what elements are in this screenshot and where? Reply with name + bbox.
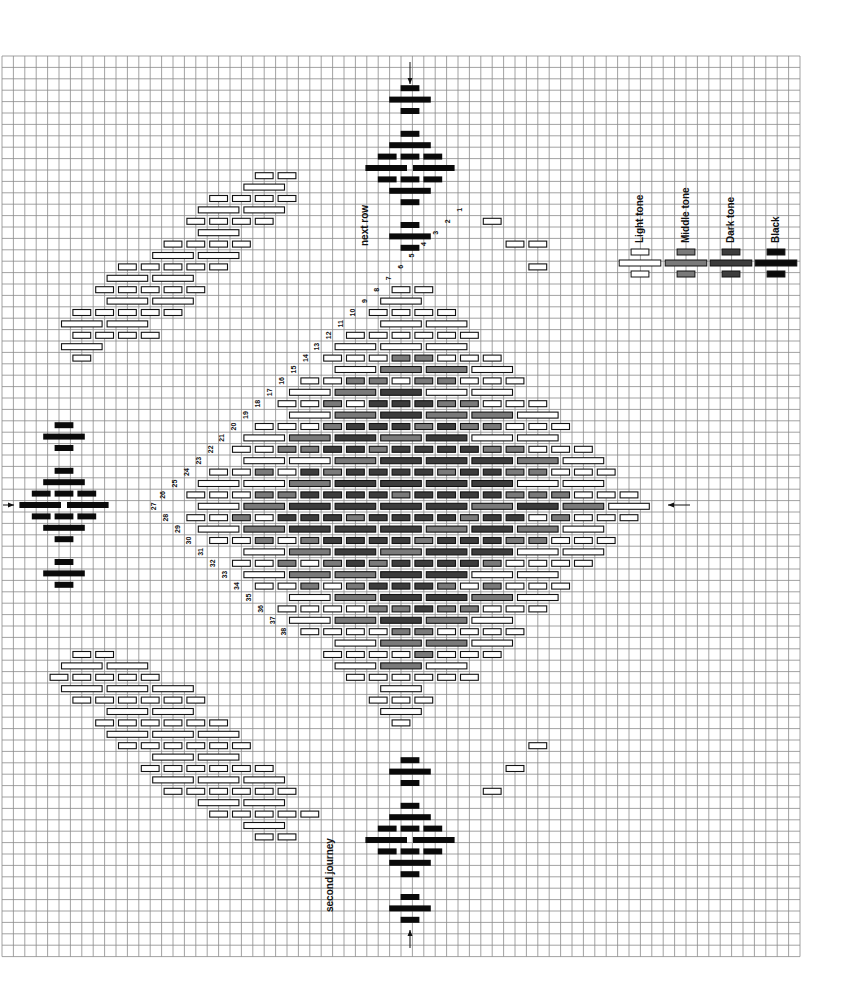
black-stitch <box>401 826 420 832</box>
stitch-bar <box>324 652 342 658</box>
black-stitch <box>401 871 420 877</box>
black-stitch <box>389 97 431 103</box>
stitch-bar <box>347 401 365 407</box>
stitch-bar <box>164 287 182 293</box>
stitch-number: 11 <box>337 320 344 328</box>
stitch-bar <box>369 424 387 430</box>
stitch-bar <box>392 424 410 430</box>
stitch-bar <box>369 401 387 407</box>
stitch-bar <box>73 355 91 361</box>
stitch-bar <box>506 538 524 544</box>
stitch-number: 38 <box>280 628 287 636</box>
stitch-bar <box>415 538 433 544</box>
legend-swatch-black <box>755 260 797 266</box>
legend-swatch-light <box>631 271 649 277</box>
black-stitch <box>401 780 420 786</box>
stitch-bar <box>96 652 114 658</box>
stitch-bar <box>415 378 433 384</box>
stitch-bar <box>575 469 593 475</box>
stitch-bar <box>597 492 615 498</box>
stitch-bar <box>415 652 433 658</box>
stitch-bar <box>255 788 273 794</box>
stitch-bar <box>301 560 319 566</box>
stitch-bar <box>107 731 148 737</box>
stitch-bar <box>472 435 513 441</box>
stitch-bar <box>483 560 501 566</box>
stitch-bar <box>461 355 479 361</box>
stitch-bar <box>461 629 479 635</box>
stitch-bar <box>426 640 467 646</box>
stitch-bar <box>244 549 285 555</box>
stitch-bar <box>255 766 273 772</box>
stitch-bar <box>255 196 273 202</box>
black-stitch <box>401 154 420 160</box>
stitch-bar <box>461 469 479 475</box>
black-stitch <box>55 536 74 542</box>
stitch-bar <box>518 572 559 578</box>
stitch-bar <box>575 492 593 498</box>
stitch-bar <box>369 515 387 521</box>
stitch-number: 22 <box>207 445 214 453</box>
stitch-number: 9 <box>361 299 368 303</box>
stitch-bar <box>62 686 103 692</box>
stitch-bar <box>575 515 593 521</box>
stitch-bar <box>483 629 501 635</box>
stitch-bar <box>278 173 296 179</box>
stitch-bar <box>506 446 524 452</box>
legend-label-dark: Dark tone <box>725 196 736 243</box>
stitch-bar <box>210 766 228 772</box>
stitch-bar <box>244 777 285 783</box>
stitch-bar <box>461 674 479 680</box>
stitch-bar <box>187 766 205 772</box>
stitch-bar <box>233 766 251 772</box>
legend-swatch-black <box>767 249 785 255</box>
stitch-bar <box>335 458 376 464</box>
stitch-bar <box>244 526 285 532</box>
stitch-bar <box>278 424 296 430</box>
stitch-bar <box>461 606 479 612</box>
stitch-bar <box>518 595 559 601</box>
stitch-bar <box>438 469 456 475</box>
stitch-bar <box>210 538 228 544</box>
black-stitch <box>43 525 85 531</box>
stitch-number: 7 <box>385 276 392 280</box>
stitch-bar <box>290 503 331 509</box>
stitch-bar <box>529 401 547 407</box>
stitch-bar <box>187 264 205 270</box>
stitch-number: 26 <box>159 491 166 499</box>
black-stitch <box>423 176 442 182</box>
stitch-bar <box>141 287 159 293</box>
stitch-bar <box>187 515 205 521</box>
stitch-bar <box>426 503 467 509</box>
stitch-bar <box>620 515 638 521</box>
stitch-bar <box>369 378 387 384</box>
stitch-bar <box>381 686 422 692</box>
stitch-number: 25 <box>171 480 178 488</box>
stitch-bar <box>324 515 342 521</box>
stitch-bar <box>392 629 410 635</box>
stitch-bar <box>335 595 376 601</box>
stitch-bar <box>381 412 422 418</box>
stitch-bar <box>73 332 91 338</box>
black-stitch <box>378 848 397 854</box>
stitch-bar <box>187 218 205 224</box>
stitch-bar <box>210 743 228 749</box>
stitch-bar <box>506 606 524 612</box>
stitch-bar <box>392 446 410 452</box>
second-journey-label: second journey <box>324 838 335 912</box>
stitch-bar <box>369 629 387 635</box>
stitch-bar <box>461 652 479 658</box>
stitch-bar <box>552 492 570 498</box>
stitch-bar <box>529 743 547 749</box>
stitch-bar <box>141 766 159 772</box>
stitch-bar <box>381 572 422 578</box>
black-stitch <box>401 85 420 91</box>
stitch-bar <box>518 549 559 555</box>
stitch-bar <box>529 424 547 430</box>
stitch-bar <box>381 321 422 327</box>
stitch-bar <box>62 663 103 669</box>
black-stitch <box>401 894 420 900</box>
stitch-bar <box>472 526 513 532</box>
stitch-bar <box>119 674 137 680</box>
black-stitch <box>365 165 407 171</box>
